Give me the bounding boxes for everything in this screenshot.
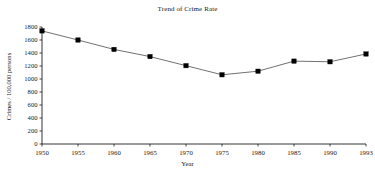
y-tick-label: 600: [28, 101, 39, 108]
y-tick-label: 0: [34, 140, 38, 147]
data-point-marker: [76, 38, 80, 42]
x-tick-label: 1980: [251, 149, 265, 156]
x-tick-group: 1950195519601965197019751980198519901993: [35, 144, 373, 156]
y-tick-group: 020040060080010001200140016001800: [24, 23, 42, 147]
series-group: [40, 29, 368, 77]
y-tick-label: 200: [28, 127, 39, 134]
data-point-marker: [364, 52, 368, 56]
x-tick-label: 1950: [35, 149, 49, 156]
x-axis-label: Year: [0, 160, 375, 167]
data-point-marker: [220, 73, 224, 77]
y-axis-label: Crimes / 100,000 persons: [6, 52, 13, 119]
y-tick-label: 400: [28, 114, 39, 121]
x-tick-label: 1975: [215, 149, 229, 156]
data-point-marker: [112, 47, 116, 51]
y-tick-label: 1000: [24, 75, 38, 82]
x-tick-label: 1993: [359, 149, 373, 156]
y-tick-label: 1800: [24, 23, 38, 30]
x-tick-label: 1960: [107, 149, 121, 156]
y-tick-label: 1200: [24, 62, 38, 69]
x-tick-label: 1990: [323, 149, 337, 156]
series-markers: [40, 29, 368, 77]
x-tick-label: 1965: [143, 149, 157, 156]
data-point-marker: [148, 54, 152, 58]
y-tick-label: 800: [28, 88, 39, 95]
data-point-marker: [328, 60, 332, 64]
crime-rate-chart: Trend of Crime Rate 02004006008001000120…: [0, 0, 375, 181]
x-tick-label: 1955: [71, 149, 85, 156]
y-axis-label-wrapper: Crimes / 100,000 persons: [2, 26, 16, 146]
y-tick-label: 1400: [24, 49, 38, 56]
x-tick-label: 1985: [287, 149, 301, 156]
data-point-marker: [184, 63, 188, 67]
data-point-marker: [256, 69, 260, 73]
series-line-crime-rate: [42, 31, 366, 75]
data-point-marker: [40, 29, 44, 33]
plot-area: 020040060080010001200140016001800 195019…: [0, 0, 375, 181]
y-tick-label: 1600: [24, 36, 38, 43]
data-point-marker: [292, 59, 296, 63]
x-tick-label: 1970: [179, 149, 193, 156]
